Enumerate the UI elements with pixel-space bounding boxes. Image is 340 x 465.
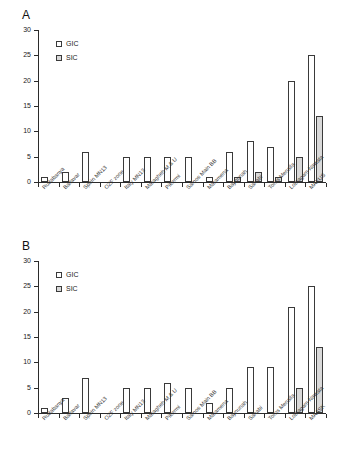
legend-swatch-gic-icon <box>56 272 62 278</box>
bar-gic <box>247 141 254 182</box>
bar-group <box>226 261 247 413</box>
legend-entry-sic: SIC <box>56 52 78 63</box>
legend-entry-sic: SIC <box>56 283 78 294</box>
y-tick-label: 5 <box>27 151 31 162</box>
y-tick-label: 5 <box>27 382 31 393</box>
bar-gic <box>82 378 89 413</box>
legend-swatch-sic-icon <box>56 286 62 292</box>
bar-gic <box>82 152 89 182</box>
bar-group <box>144 261 165 413</box>
y-tick-label: 10 <box>23 356 31 367</box>
bar-group <box>123 261 144 413</box>
legend-swatch-gic-icon <box>56 41 62 47</box>
y-tick-label: 0 <box>27 407 31 418</box>
bar-gic <box>247 367 254 413</box>
panel-a-legend: GIC SIC <box>56 38 78 66</box>
figure-two-panel-bar-chart: A 051015202530 GIC SIC RudabanyaBaltavar… <box>0 0 340 465</box>
panel-a-bars <box>38 30 326 182</box>
bar-group <box>267 261 288 413</box>
panel-b-bars <box>38 261 326 413</box>
y-tick-label: 10 <box>23 125 31 136</box>
bar-group <box>123 30 144 182</box>
panel-b-label: B <box>22 239 30 253</box>
bar-group <box>226 30 247 182</box>
panel-a-category-labels: RudabanyaBaltavarSpain MN13OZF zoneItaly… <box>38 184 326 232</box>
legend-label-gic: GIC <box>66 40 78 48</box>
bar-group <box>144 30 165 182</box>
panel-a-plot-area: 051015202530 <box>38 30 326 183</box>
bar-group <box>103 261 124 413</box>
y-tick-label: 25 <box>23 49 31 60</box>
x-tick <box>326 183 327 187</box>
panel-b-plot-area: 051015202530 <box>38 261 326 414</box>
legend-label-sic: SIC <box>66 54 78 62</box>
bar-group <box>247 30 268 182</box>
bar-gic <box>267 367 274 413</box>
legend-swatch-sic-icon <box>56 55 62 61</box>
bar-group <box>288 261 309 413</box>
bar-group <box>247 261 268 413</box>
y-tick-label: 30 <box>23 24 31 35</box>
legend-label-sic: SIC <box>66 285 78 293</box>
legend-entry-gic: GIC <box>56 38 78 49</box>
panel-b: B 051015202530 GIC SIC RudabanyaBaltavar… <box>0 233 340 465</box>
y-tick-label: 15 <box>23 331 31 342</box>
x-tick <box>326 414 327 418</box>
y-tick-label: 0 <box>27 176 31 187</box>
legend-label-gic: GIC <box>66 271 78 279</box>
bar-group <box>185 261 206 413</box>
panel-a: A 051015202530 GIC SIC RudabanyaBaltavar… <box>0 2 340 234</box>
bar-gic <box>226 152 233 182</box>
y-tick-label: 30 <box>23 255 31 266</box>
bar-group <box>82 30 103 182</box>
bar-group <box>103 30 124 182</box>
bar-group <box>185 30 206 182</box>
bar-group <box>267 30 288 182</box>
panel-b-category-labels: RudabanyaBaltavarSpain MN13OZF zoneItaly… <box>38 415 326 463</box>
panel-b-legend: GIC SIC <box>56 269 78 297</box>
bar-group <box>288 30 309 182</box>
legend-entry-gic: GIC <box>56 269 78 280</box>
y-tick-label: 15 <box>23 100 31 111</box>
bar-group <box>82 261 103 413</box>
y-tick-label: 20 <box>23 75 31 86</box>
bar-gic <box>267 147 274 182</box>
panel-a-label: A <box>22 8 30 22</box>
y-tick-label: 25 <box>23 280 31 291</box>
y-tick-label: 20 <box>23 306 31 317</box>
